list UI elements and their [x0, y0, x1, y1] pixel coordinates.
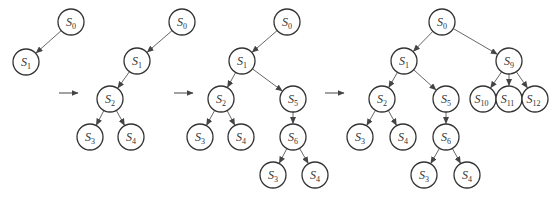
tree-node: S3 [411, 162, 437, 188]
tree-node: S6 [280, 124, 306, 150]
tree-node: S2 [208, 86, 234, 112]
tree-edge [147, 31, 172, 53]
tree-node: S4 [228, 124, 254, 150]
tree-node: S6 [433, 124, 459, 150]
tree-node: S9 [496, 48, 522, 74]
tree-node: S2 [97, 86, 123, 112]
tree-node: S3 [77, 124, 103, 150]
tree-node: S1 [229, 48, 255, 74]
tree-node: S4 [454, 162, 480, 188]
tree-edge [367, 110, 376, 125]
tree-edge [491, 72, 502, 88]
tree-panel-2: S0S1S2S3S4 [77, 9, 195, 150]
tree-panel-1: S0S1 [13, 9, 84, 75]
tree-node: S5 [280, 86, 306, 112]
tree-node: S0 [429, 9, 455, 35]
tree-edge [453, 29, 497, 55]
tree-edge [431, 148, 440, 163]
tree-edge [452, 148, 460, 163]
tree-node: S3 [260, 162, 286, 188]
tree-edge [413, 31, 433, 51]
tree-panels: S0S1S0S1S2S3S4S0S1S2S3S4S5S6S3S4S0S1S2S3… [13, 9, 548, 188]
tree-node: S2 [369, 86, 395, 112]
tree-node: S1 [124, 48, 150, 74]
tree-node: S4 [390, 124, 416, 150]
tree-node: S1 [391, 48, 417, 74]
tree-expansion-diagram: S0S1S0S1S2S3S4S0S1S2S3S4S5S6S3S4S0S1S2S3… [0, 0, 559, 198]
tree-edge [227, 111, 235, 126]
tree-node: S0 [274, 9, 300, 35]
tree-node: S12 [522, 86, 548, 112]
tree-edge [516, 72, 527, 88]
tree-edge [388, 110, 396, 125]
tree-edge [36, 31, 61, 53]
tree-node: S4 [118, 124, 144, 150]
tree-edge [207, 110, 215, 125]
tree-node: S0 [58, 9, 84, 35]
tree-node: S10 [470, 86, 496, 112]
tree-edge [116, 110, 124, 125]
tree-node: S3 [187, 124, 213, 150]
tree-edge [389, 72, 398, 87]
tree-panel-3: S0S1S2S3S4S5S6S3S4 [187, 9, 328, 188]
tree-edge [300, 148, 309, 163]
tree-edge [252, 31, 277, 53]
tree-node: S3 [347, 124, 373, 150]
tree-panel-4: S0S1S2S3S4S5S6S3S4S9S10S11S12 [347, 9, 548, 188]
tree-edge [252, 69, 282, 91]
tree-edge [96, 111, 104, 126]
tree-node: S4 [302, 162, 328, 188]
tree-node: S11 [496, 86, 522, 112]
tree-edge [228, 72, 236, 87]
tree-node: S5 [433, 86, 459, 112]
tree-edge [118, 72, 130, 88]
tree-node: S0 [169, 9, 195, 35]
tree-edge [279, 149, 287, 164]
tree-node: S1 [13, 49, 39, 75]
tree-edge [414, 70, 436, 90]
